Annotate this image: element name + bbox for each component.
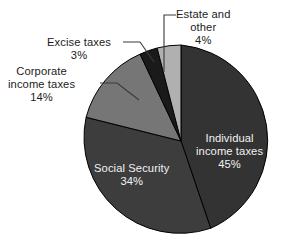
slice-label-estate-and-other: Estate and other 4% (176, 8, 231, 48)
slice-label-line1: Estate and (176, 8, 231, 21)
slice-label-line1: Social Security (94, 162, 170, 175)
slice-value-social-security: 34% (94, 175, 170, 188)
slice-label-individual-income-taxes: Individual income taxes 45% (196, 132, 263, 172)
slice-label-line2: income taxes (196, 145, 263, 158)
slice-label-social-security: Social Security 34% (94, 162, 170, 188)
slice-value-corporate-income-taxes: 14% (8, 91, 75, 104)
pie-chart-canvas (0, 0, 295, 249)
slice-value-estate-and-other: 4% (176, 34, 231, 47)
pie-chart: Estate and other 4% Excise taxes 3% Corp… (0, 0, 295, 249)
slice-value-excise-taxes: 3% (47, 49, 111, 62)
slice-label-excise-taxes: Excise taxes 3% (47, 36, 111, 62)
slice-label-line1: Corporate (8, 65, 75, 78)
slice-label-line2: income taxes (8, 78, 75, 91)
slice-label-line2: other (176, 21, 231, 34)
slice-label-line1: Individual (196, 132, 263, 145)
slice-label-line1: Excise taxes (47, 36, 111, 49)
slice-value-individual-income-taxes: 45% (196, 158, 263, 171)
slice-label-corporate-income-taxes: Corporate income taxes 14% (8, 65, 75, 105)
